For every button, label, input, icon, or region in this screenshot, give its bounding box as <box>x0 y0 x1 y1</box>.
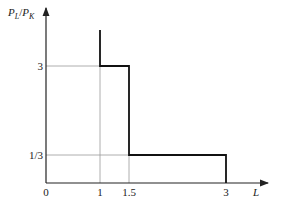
x-tick-1: 1 <box>97 186 103 198</box>
step-curve <box>100 30 226 183</box>
y-tick-3: 3 <box>38 60 44 72</box>
x-tick-0: 0 <box>43 186 49 198</box>
y-tick-1-3: 1/3 <box>29 149 44 161</box>
y-axis-label: PL/PK <box>7 6 35 21</box>
guide-lines <box>46 66 129 183</box>
x-tick-1-5: 1.5 <box>122 186 136 198</box>
x-axis-label: L <box>252 186 259 198</box>
x-tick-3: 3 <box>223 186 229 198</box>
chart: PL/PK 3 1/3 0 1 1.5 3 L <box>0 0 286 203</box>
